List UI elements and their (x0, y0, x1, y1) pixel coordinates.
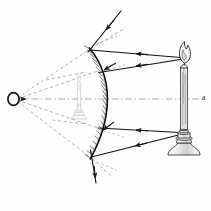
axis-label-a: a (202, 93, 206, 102)
ray-diagram-svg (0, 0, 211, 211)
candle (168, 41, 200, 155)
light-rays (88, 11, 181, 183)
ray-external-top (88, 11, 121, 52)
construction-lines (17, 28, 125, 177)
candle-body (181, 62, 188, 130)
candle-flame (179, 41, 190, 63)
ray-incident-upper (91, 50, 181, 58)
diagram-canvas: a (0, 0, 211, 211)
convergence-point-o (8, 93, 19, 106)
concave-mirror (84, 46, 107, 159)
inverted-candle-image (71, 74, 87, 119)
